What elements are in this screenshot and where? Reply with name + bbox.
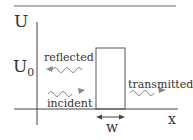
reflected-label: reflected xyxy=(44,52,94,63)
barrier-height-label: U0 xyxy=(13,58,34,78)
y-axis-label: U xyxy=(14,13,28,30)
reflected-wave-icon xyxy=(46,66,82,73)
potential-barrier xyxy=(96,48,125,109)
width-label: w xyxy=(106,120,118,134)
x-axis-label: x xyxy=(168,112,176,126)
incident-label: incident xyxy=(47,98,92,109)
incident-wave-icon xyxy=(48,88,85,97)
transmitted-label: transmitted xyxy=(128,79,193,90)
